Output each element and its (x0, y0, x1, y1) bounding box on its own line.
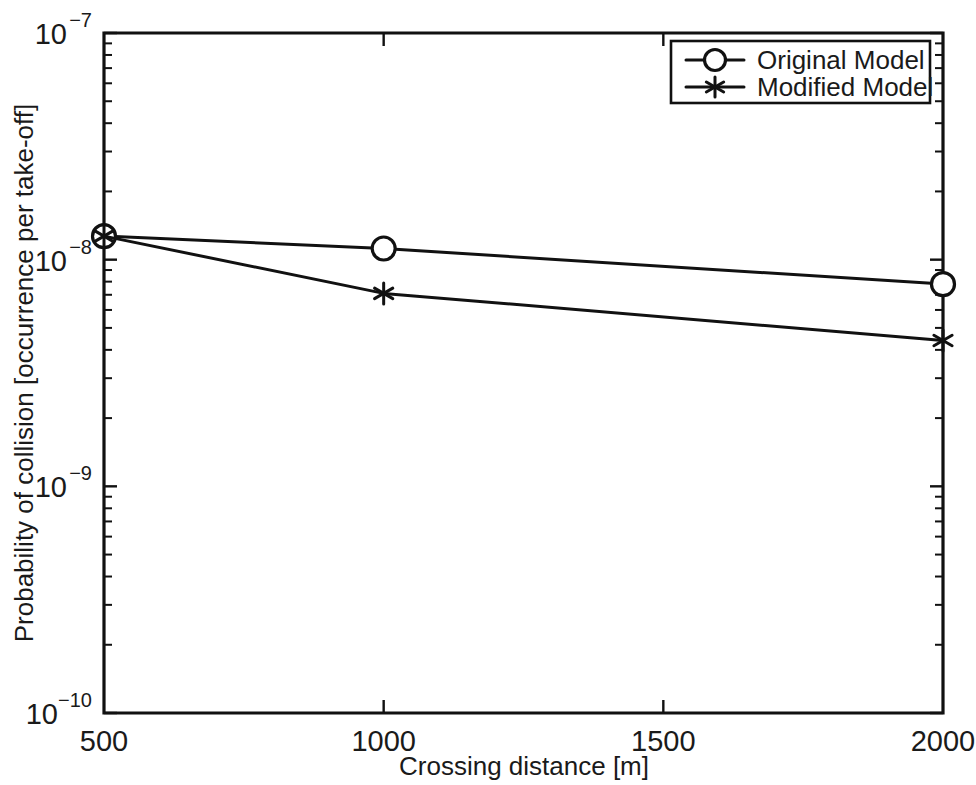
y-tick-label-base: 10 (35, 471, 67, 503)
y-axis-ticks (104, 33, 943, 713)
x-axis-ticks (384, 33, 664, 713)
y-tick-label-exponent: −9 (69, 462, 92, 484)
y-tick-label: 10−8 (35, 236, 92, 277)
data-series-layer (93, 225, 955, 351)
x-axis-title: Crossing distance [m] (399, 751, 649, 781)
plot-frame (104, 33, 943, 713)
chart-legend: Original ModelModified Model (671, 41, 933, 103)
y-tick-label-exponent: −7 (69, 9, 92, 31)
y-tick-label: 10−10 (26, 689, 92, 730)
y-tick-label-base: 10 (35, 245, 67, 277)
chart-figure: 10−710−810−910−10 500100015002000 Probab… (0, 0, 976, 785)
y-tick-label-base: 10 (35, 18, 67, 50)
y-tick-label-exponent: −8 (69, 236, 92, 258)
chart-svg: 10−710−810−910−10 500100015002000 Probab… (0, 0, 976, 785)
y-tick-label-base: 10 (26, 698, 58, 730)
y-tick-label-exponent: −10 (58, 689, 92, 711)
legend-label: Original Model (757, 45, 925, 75)
series-modified-model (95, 226, 952, 351)
marker-circle (372, 237, 395, 260)
marker-circle (932, 273, 955, 296)
y-tick-label: 10−9 (35, 462, 92, 503)
x-tick-label: 2000 (911, 725, 976, 757)
x-tick-label: 500 (80, 725, 128, 757)
y-axis-title: Probability of collision [occurrence per… (9, 104, 39, 643)
y-tick-label: 10−7 (35, 9, 92, 50)
series-polyline (104, 236, 943, 340)
series-polyline (104, 236, 943, 284)
legend-marker-circle (705, 50, 726, 71)
legend-label: Modified Model (757, 72, 933, 102)
